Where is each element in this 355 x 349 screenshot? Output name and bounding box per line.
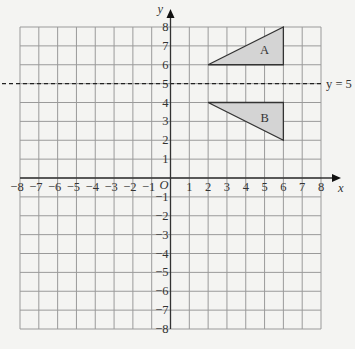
shape-label-a: A	[260, 43, 269, 57]
axes	[20, 9, 341, 329]
y-tick-label: 2	[162, 133, 168, 147]
y-tick-label: 8	[162, 20, 168, 34]
y-tick-label: −2	[155, 209, 168, 223]
x-tick-label: −3	[104, 180, 117, 194]
y-axis-arrow-icon	[167, 9, 175, 18]
x-axis-label: x	[337, 181, 344, 195]
y-tick-label: 7	[162, 39, 168, 53]
y-tick-label: 6	[162, 58, 168, 72]
coordinate-grid: AB y = 5 −8−7−6−5−4−3−2−1123456788765432…	[0, 0, 355, 349]
x-tick-label: −6	[48, 180, 61, 194]
y-axis-label: y	[156, 2, 164, 16]
x-tick-label: −1	[142, 180, 155, 194]
x-tick-label: 1	[186, 180, 192, 194]
y-tick-label: −6	[155, 284, 168, 298]
y-tick-label: 4	[162, 96, 169, 110]
x-tick-label: 8	[318, 180, 324, 194]
mirror-line-label: y = 5	[326, 77, 352, 91]
x-tick-label: −4	[86, 180, 100, 194]
x-tick-label: 5	[261, 180, 267, 194]
y-tick-label: 1	[162, 152, 168, 166]
x-tick-label: 6	[280, 180, 286, 194]
x-tick-label: 3	[224, 180, 230, 194]
y-tick-label: 5	[162, 77, 168, 91]
y-tick-label: −7	[155, 303, 168, 317]
shape-label-b: B	[260, 111, 268, 125]
x-tick-label: −5	[67, 180, 80, 194]
x-tick-label: −7	[29, 180, 42, 194]
axis-labels: −8−7−6−5−4−3−2−11234567887654321−1−2−3−4…	[10, 2, 344, 336]
origin-label: O	[159, 178, 168, 192]
y-tick-label: −4	[155, 247, 169, 261]
y-tick-label: −8	[155, 322, 168, 336]
x-tick-label: 2	[205, 180, 211, 194]
y-tick-label: 3	[162, 114, 168, 128]
x-tick-label: −8	[10, 180, 23, 194]
x-tick-label: 7	[299, 180, 305, 194]
y-tick-label: −5	[155, 265, 168, 279]
x-tick-label: −2	[123, 180, 136, 194]
x-tick-label: 4	[243, 180, 250, 194]
y-tick-label: −3	[155, 228, 168, 242]
